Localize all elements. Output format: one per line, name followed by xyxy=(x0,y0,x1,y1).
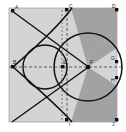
label-F: F xyxy=(90,59,93,65)
point-B[interactable] xyxy=(11,65,14,68)
point-A[interactable] xyxy=(11,9,14,12)
geometry-figure: A C D B E F G H I J xyxy=(0,0,126,132)
geometry-canvas: A C D B E F G H I J xyxy=(0,0,126,132)
label-D: D xyxy=(112,3,116,9)
point-J[interactable] xyxy=(115,118,118,121)
label-C: C xyxy=(69,3,73,9)
point-F[interactable] xyxy=(86,65,90,69)
point-I[interactable] xyxy=(65,118,68,121)
point-H[interactable] xyxy=(115,76,118,79)
label-I: I xyxy=(69,121,70,127)
label-H: H xyxy=(111,77,115,83)
point-C[interactable] xyxy=(65,8,68,11)
point-E[interactable] xyxy=(61,65,64,68)
label-G: G xyxy=(111,55,115,61)
point-G[interactable] xyxy=(115,60,118,63)
